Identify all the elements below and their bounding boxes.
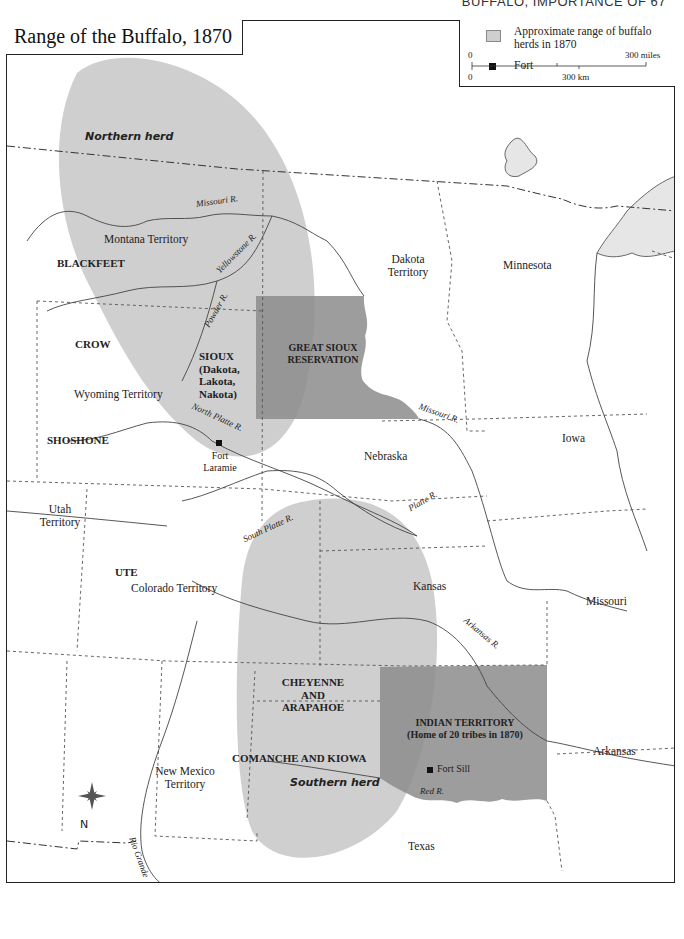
- label-blackfeet: BLACKFEET: [57, 257, 125, 270]
- label-montana-territory: Montana Territory: [104, 233, 188, 246]
- utah-line-2: Territory: [40, 516, 81, 528]
- fort-sill-icon: [427, 767, 433, 773]
- map-title: Range of the Buffalo, 1870: [6, 20, 243, 55]
- cheyenne-line-1: CHEYENNE: [282, 676, 344, 688]
- dakota-line-2: Territory: [388, 266, 429, 278]
- indian-territory-line-1: INDIAN TERRITORY: [415, 717, 514, 728]
- label-utah-territory: UtahTerritory: [35, 503, 85, 529]
- label-minnesota: Minnesota: [503, 259, 552, 272]
- utah-line-1: Utah: [49, 503, 71, 515]
- label-great-sioux-reservation: GREAT SIOUXRESERVATION: [278, 342, 368, 365]
- label-fort-laramie: FortLaramie: [200, 450, 240, 473]
- great-sioux-line-1: GREAT SIOUX: [289, 342, 358, 353]
- label-dakota-territory: DakotaTerritory: [378, 253, 438, 279]
- label-missouri: Missouri: [586, 595, 627, 608]
- label-comanche-kiowa: COMANCHE AND KIOWA: [232, 752, 366, 765]
- cheyenne-line-3: ARAPAHOE: [282, 701, 344, 713]
- label-indian-territory: INDIAN TERRITORY(Home of 20 tribes in 18…: [405, 717, 525, 740]
- label-new-mexico-territory: New MexicoTerritory: [145, 765, 225, 791]
- sioux-line-3: Lakota,: [199, 375, 235, 387]
- sioux-line-1: SIOUX: [199, 350, 234, 362]
- label-crow: CROW: [75, 338, 110, 351]
- cheyenne-line-2: AND: [301, 689, 325, 701]
- label-colorado-territory: Colorado Territory: [131, 582, 217, 595]
- label-iowa: Iowa: [562, 432, 585, 445]
- great-sioux-line-2: RESERVATION: [288, 354, 359, 365]
- scale-km-end: 300 km: [562, 72, 589, 82]
- sioux-line-4: Nakota): [199, 388, 237, 400]
- minnesota-mississippi: [587, 253, 647, 551]
- label-fort-sill: Fort Sill: [437, 763, 470, 775]
- compass-north-label: N: [80, 818, 88, 831]
- fort-laramie-line-1: Fort: [212, 450, 229, 461]
- label-nebraska: Nebraska: [364, 450, 407, 463]
- lake-of-the-woods: [505, 138, 537, 176]
- page-header: BUFFALO, IMPORTANCE OF 67: [462, 0, 666, 9]
- new-mexico-line-1: New Mexico: [155, 765, 215, 777]
- label-cheyenne-arapahoe: CHEYENNEANDARAPAHOE: [278, 676, 348, 714]
- scale-miles-end: 300 miles: [625, 50, 660, 60]
- rio-grande: [141, 621, 197, 883]
- label-red-river: Red R.: [420, 786, 444, 796]
- scale-km-start: 0: [468, 72, 473, 82]
- missouri-river-lower: [419, 419, 627, 611]
- southern-herd-label: Southern herd: [290, 777, 380, 790]
- legend: Approximate range of buffalo herds in 18…: [459, 20, 675, 87]
- label-wyoming-territory: Wyoming Territory: [74, 388, 163, 401]
- new-mexico-line-2: Territory: [165, 778, 206, 790]
- lake-superior: [597, 176, 675, 257]
- label-shoshone: SHOSHONE: [47, 434, 109, 447]
- label-sioux: SIOUX(Dakota,Lakota,Nakota): [199, 350, 240, 401]
- label-texas: Texas: [408, 840, 435, 853]
- indian-territory-line-2: (Home of 20 tribes in 1870): [407, 729, 523, 740]
- northern-herd-label: Northern herd: [85, 131, 173, 144]
- fort-laramie-icon: [216, 440, 222, 446]
- label-kansas: Kansas: [413, 580, 446, 593]
- fort-laramie-line-2: Laramie: [203, 462, 236, 473]
- sioux-line-2: (Dakota,: [199, 363, 240, 375]
- label-ute: UTE: [115, 566, 138, 579]
- compass-rose-icon: [78, 782, 106, 810]
- platte-river: [7, 511, 167, 526]
- dakota-line-1: Dakota: [391, 253, 424, 265]
- label-arkansas: Arkansas: [593, 745, 636, 758]
- scale-miles-start: 0: [468, 50, 473, 60]
- mexico-border: [7, 841, 137, 849]
